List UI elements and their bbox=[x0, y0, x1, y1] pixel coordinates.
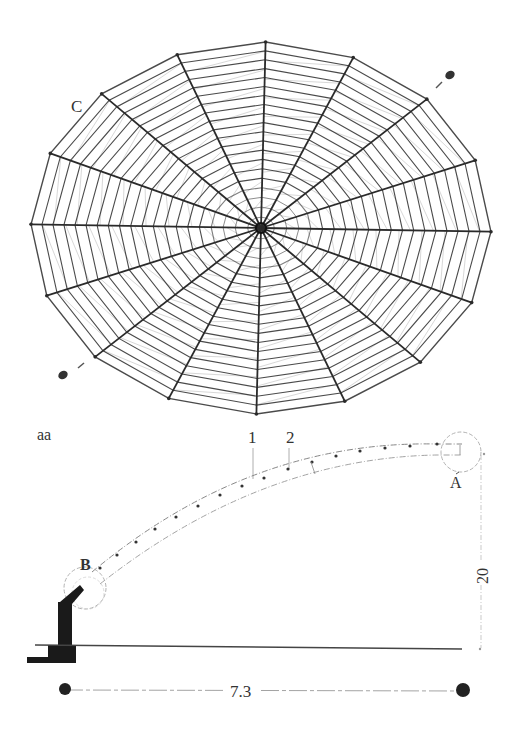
ground-line bbox=[35, 645, 462, 649]
height-dim-tick-top bbox=[483, 453, 485, 455]
section-label: aa bbox=[37, 426, 51, 443]
span-dim-end-right bbox=[456, 683, 470, 697]
anchor-marker-bottom-left bbox=[57, 369, 70, 381]
height-dimension-label: 20 bbox=[474, 568, 491, 584]
dome-plan-view bbox=[29, 40, 493, 416]
inner-chord bbox=[100, 455, 462, 584]
support-wall bbox=[27, 585, 84, 663]
label-c: C bbox=[71, 97, 82, 116]
anchor-axis-top-right bbox=[436, 82, 442, 88]
span-dimension-line bbox=[65, 690, 462, 691]
dome-drawing: C aa 1 2 A B 20 bbox=[0, 0, 522, 745]
anchor-marker-top-right bbox=[444, 69, 457, 81]
height-dim-tick-bottom bbox=[479, 648, 481, 650]
span-dimension-label: 7.3 bbox=[230, 682, 251, 701]
span-dim-end-left bbox=[59, 683, 71, 695]
web-member bbox=[311, 462, 315, 474]
member-label-2: 2 bbox=[286, 428, 295, 447]
dome-section-view: aa 1 2 A B 20 7.3 bbox=[27, 426, 491, 701]
detail-label-a: A bbox=[450, 474, 462, 491]
detail-circle-a bbox=[441, 432, 481, 472]
outer-chord bbox=[92, 444, 462, 572]
anchor-axis-bottom-left bbox=[78, 363, 84, 368]
chord-nodes bbox=[98, 442, 438, 569]
member-label-1: 1 bbox=[248, 428, 257, 447]
detail-label-b: B bbox=[80, 556, 91, 573]
